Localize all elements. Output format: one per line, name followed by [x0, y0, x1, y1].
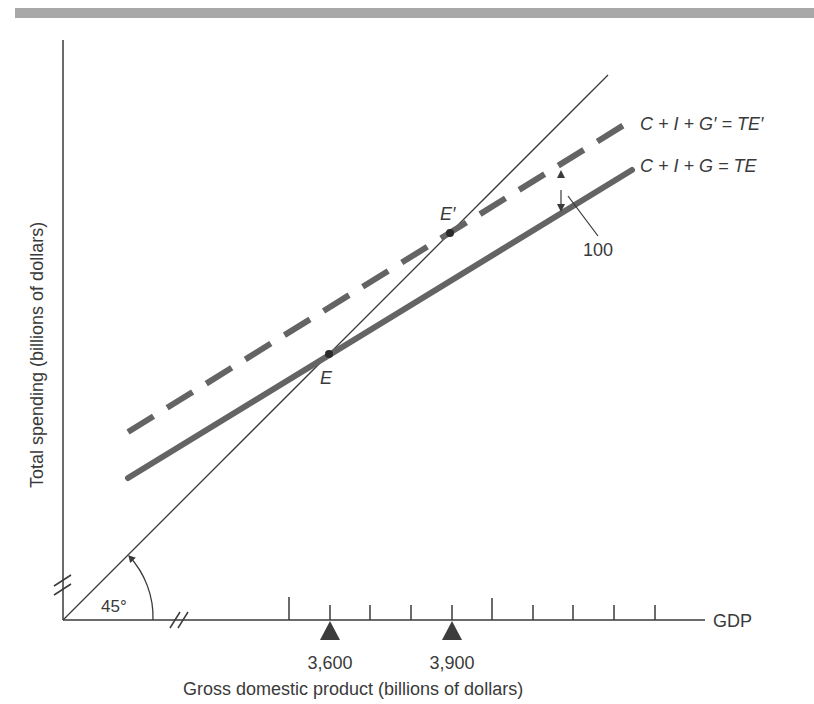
te-label: C + I + G = TE — [640, 156, 758, 176]
te-prime-label: C + I + G′ = TE′ — [640, 114, 764, 134]
point-e — [325, 350, 333, 358]
tick-label-3900: 3,900 — [429, 653, 474, 673]
chart: E E′ C + I + G′ = TE′ C + I + G = TE 100… — [0, 0, 814, 704]
angle-arc — [129, 556, 153, 620]
point-e-prime — [446, 229, 454, 237]
y-axis-title: Total spending (billions of dollars) — [27, 222, 47, 488]
point-e-label: E — [320, 368, 333, 388]
x-axis-end-label: GDP — [713, 611, 752, 631]
marker-3600-icon — [320, 621, 340, 640]
te-line — [128, 170, 632, 478]
angle-label: 45° — [101, 597, 127, 616]
marker-3900-icon — [442, 621, 462, 640]
x-axis-ticks — [289, 597, 655, 620]
line-45-degree — [63, 75, 608, 620]
gap-label: 100 — [583, 240, 613, 260]
x-axis-title: Gross domestic product (billions of doll… — [183, 679, 523, 699]
point-e-prime-label: E′ — [440, 204, 456, 224]
tick-label-3600: 3,600 — [307, 653, 352, 673]
te-prime-line — [128, 120, 632, 432]
